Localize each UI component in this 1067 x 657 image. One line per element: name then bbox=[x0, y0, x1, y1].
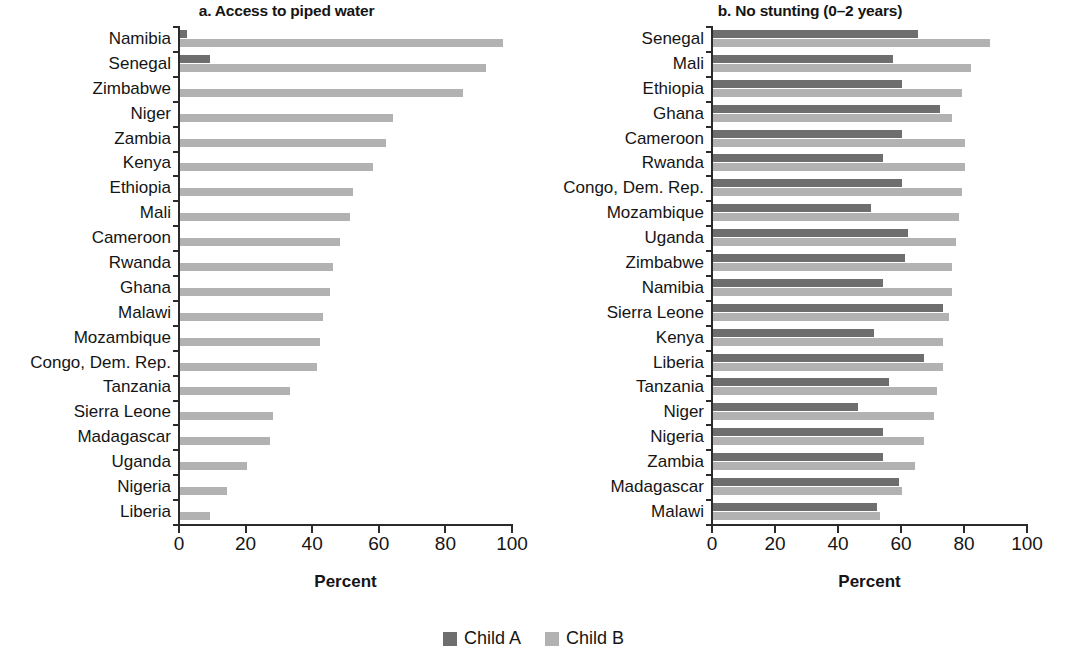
bar-row bbox=[713, 26, 1028, 51]
y-tick-mark bbox=[706, 499, 713, 501]
bar-child-b bbox=[180, 288, 330, 296]
bar-row bbox=[180, 399, 513, 424]
bar-child-a bbox=[713, 130, 902, 138]
bar-child-b bbox=[713, 288, 952, 296]
y-tick-mark bbox=[173, 101, 180, 103]
y-tick-mark bbox=[706, 200, 713, 202]
y-tick-mark bbox=[173, 151, 180, 153]
bar-child-a bbox=[713, 229, 908, 237]
category-label: Uganda bbox=[0, 449, 171, 474]
y-tick-mark bbox=[173, 300, 180, 302]
bar-row bbox=[713, 399, 1028, 424]
bar-row bbox=[180, 350, 513, 375]
x-tick-label: 80 bbox=[953, 533, 974, 555]
x-tick-label: 100 bbox=[1011, 533, 1043, 555]
bar-child-b bbox=[180, 188, 353, 196]
y-tick-mark bbox=[173, 449, 180, 451]
panel-b-x-ticks bbox=[711, 526, 1028, 533]
y-tick-mark bbox=[706, 375, 713, 377]
bar-row bbox=[713, 150, 1028, 175]
bar-child-a bbox=[180, 55, 210, 63]
y-tick-mark bbox=[173, 424, 180, 426]
bar-child-a bbox=[713, 403, 858, 411]
y-tick-mark bbox=[706, 325, 713, 327]
category-label: Namibia bbox=[533, 275, 704, 300]
category-label: Zimbabwe bbox=[0, 76, 171, 101]
legend-label: Child B bbox=[566, 628, 624, 649]
panel-b-y-ticks bbox=[706, 26, 713, 524]
category-label: Madagascar bbox=[0, 424, 171, 449]
bar-child-b bbox=[713, 512, 880, 520]
bar-child-b bbox=[180, 39, 503, 47]
panel-b-category-labels: SenegalMaliEthiopiaGhanaCameroonRwandaCo… bbox=[533, 26, 711, 524]
category-label: Namibia bbox=[0, 26, 171, 51]
bar-child-b bbox=[713, 263, 952, 271]
category-label: Nigeria bbox=[0, 474, 171, 499]
panel-b-x-tick-labels: 020406080100 bbox=[711, 533, 1028, 559]
bar-row bbox=[713, 499, 1028, 524]
category-label: Malawi bbox=[0, 300, 171, 325]
bar-child-b bbox=[180, 412, 273, 420]
bar-child-a bbox=[713, 378, 889, 386]
category-label: Uganda bbox=[533, 225, 704, 250]
bar-child-a bbox=[713, 55, 893, 63]
bar-row bbox=[180, 499, 513, 524]
bar-child-a bbox=[713, 204, 871, 212]
bar-child-b bbox=[713, 64, 971, 72]
bar-child-a bbox=[713, 30, 918, 38]
panel-a-plot-area bbox=[178, 26, 513, 524]
y-tick-mark bbox=[706, 101, 713, 103]
bar-row bbox=[713, 275, 1028, 300]
panel-b: b. No stunting (0–2 years) SenegalMaliEt… bbox=[533, 0, 1067, 620]
bar-child-b bbox=[180, 89, 463, 97]
y-tick-mark bbox=[706, 225, 713, 227]
y-tick-mark bbox=[173, 26, 180, 28]
bar-child-b bbox=[180, 64, 486, 72]
bar-child-b bbox=[180, 238, 340, 246]
bar-child-b bbox=[180, 363, 317, 371]
bar-child-a bbox=[713, 478, 899, 486]
category-label: Rwanda bbox=[0, 250, 171, 275]
bar-row bbox=[713, 300, 1028, 325]
panel-a-x-axis-title: Percent bbox=[178, 572, 513, 592]
category-label: Kenya bbox=[533, 325, 704, 350]
legend-swatch-icon bbox=[443, 632, 457, 646]
y-tick-mark bbox=[173, 499, 180, 501]
bar-child-a bbox=[713, 179, 902, 187]
category-label: Congo, Dem. Rep. bbox=[533, 175, 704, 200]
bar-row bbox=[180, 101, 513, 126]
bar-row bbox=[713, 76, 1028, 101]
x-tick-mark bbox=[311, 526, 313, 533]
category-label: Sierra Leone bbox=[533, 300, 704, 325]
bar-child-b bbox=[713, 387, 937, 395]
bar-child-b bbox=[180, 437, 270, 445]
chart-legend: Child AChild B bbox=[0, 628, 1067, 649]
category-label: Ethiopia bbox=[0, 175, 171, 200]
x-tick-label: 0 bbox=[174, 533, 185, 555]
bar-row bbox=[180, 474, 513, 499]
bar-child-a bbox=[713, 80, 902, 88]
figure-root: a. Access to piped water NamibiaSenegalZ… bbox=[0, 0, 1067, 657]
bar-row bbox=[713, 225, 1028, 250]
bar-row bbox=[180, 449, 513, 474]
bar-row bbox=[180, 126, 513, 151]
bar-child-a bbox=[713, 503, 877, 511]
category-label: Mali bbox=[533, 51, 704, 76]
category-label: Liberia bbox=[533, 350, 704, 375]
y-tick-mark bbox=[173, 325, 180, 327]
panel-b-bar-rows bbox=[713, 26, 1028, 524]
x-tick-mark bbox=[378, 526, 380, 533]
x-tick-label: 0 bbox=[707, 533, 718, 555]
bar-row bbox=[180, 275, 513, 300]
bar-child-b bbox=[180, 462, 247, 470]
bar-child-b bbox=[713, 462, 915, 470]
y-tick-mark bbox=[706, 350, 713, 352]
category-label: Ghana bbox=[0, 275, 171, 300]
category-label: Cameroon bbox=[0, 225, 171, 250]
bar-row bbox=[713, 175, 1028, 200]
x-tick-mark bbox=[963, 526, 965, 533]
y-tick-mark bbox=[173, 225, 180, 227]
bar-child-b bbox=[713, 39, 990, 47]
x-tick-mark bbox=[711, 526, 713, 533]
bar-child-b bbox=[713, 114, 952, 122]
